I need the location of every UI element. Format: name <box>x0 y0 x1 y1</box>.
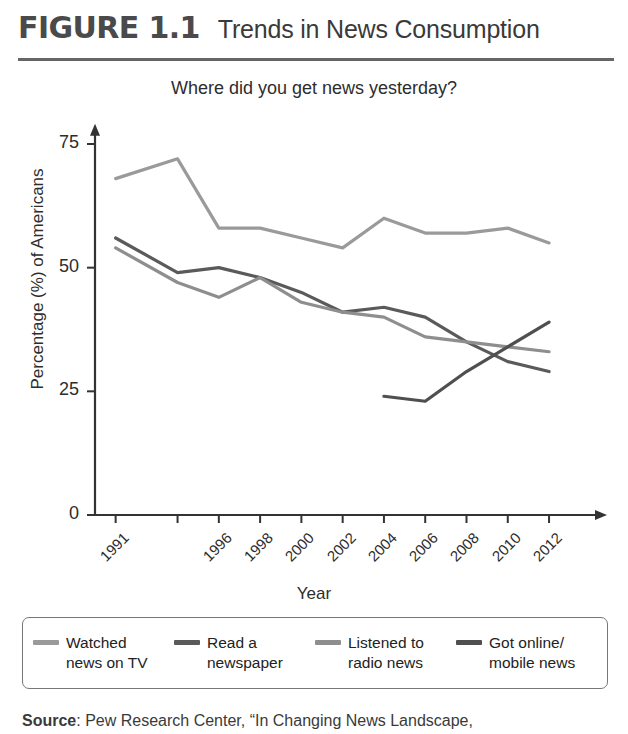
legend-label-newspaper: Read anewspaper <box>207 633 283 673</box>
figure-title: Trends in News Consumption <box>218 15 540 44</box>
y-tick-50: 50 <box>33 256 79 277</box>
chart-legend: Watchednews on TVRead anewspaperListened… <box>22 617 608 689</box>
chart-container: Where did you get news yesterday? Percen… <box>0 64 628 609</box>
line-chart-plot <box>0 64 628 609</box>
figure-page: FIGURE 1.1 Trends in News Consumption Wh… <box>0 0 628 734</box>
source-label: Source <box>22 712 76 729</box>
legend-swatch-newspaper <box>174 640 200 645</box>
legend-item-online: Got online/mobile news <box>456 633 597 673</box>
figure-number: FIGURE 1.1 <box>18 10 200 45</box>
figure-header: FIGURE 1.1 Trends in News Consumption <box>18 10 614 45</box>
legend-label-tv: Watchednews on TV <box>66 633 148 673</box>
source-text: : Pew Research Center, “In Changing News… <box>76 712 473 729</box>
y-tick-25: 25 <box>33 379 79 400</box>
legend-label-radio: Listened toradio news <box>348 633 424 673</box>
legend-swatch-online <box>456 640 482 645</box>
legend-label-online: Got online/mobile news <box>489 633 575 673</box>
y-tick-75: 75 <box>33 132 79 153</box>
header-divider <box>18 58 614 61</box>
source-note: Source: Pew Research Center, “In Changin… <box>22 712 622 730</box>
y-tick-0: 0 <box>33 503 79 524</box>
legend-swatch-tv <box>33 640 59 645</box>
legend-item-tv: Watchednews on TV <box>33 633 174 673</box>
legend-item-newspaper: Read anewspaper <box>174 633 315 673</box>
legend-item-radio: Listened toradio news <box>315 633 456 673</box>
legend-swatch-radio <box>315 640 341 645</box>
